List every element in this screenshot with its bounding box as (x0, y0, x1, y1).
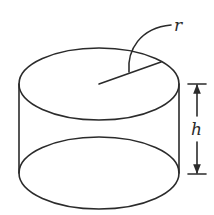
height-label: h (191, 119, 202, 139)
radius-label: r (174, 15, 183, 35)
cylinder-svg: r h (0, 0, 214, 215)
radius-line (99, 62, 161, 84)
cylinder-diagram: r h (0, 0, 214, 215)
radius-leader-curve (129, 25, 171, 72)
bottom-face-ellipse (19, 137, 179, 209)
